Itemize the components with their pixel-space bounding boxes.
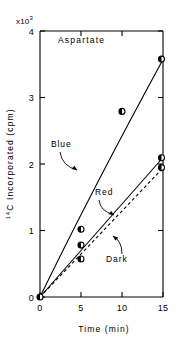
panel-title: Aspartate [58,35,105,45]
data-point-blue-10 [119,108,125,114]
annotation-blue: Blue [51,139,77,170]
x-axis-title-text: Time (min) [78,324,129,334]
svg-text:14C Incorporated (cpm): 14C Incorporated (cpm) [5,108,15,219]
x-tick-label-0: 0 [37,303,42,313]
panel-title-text: Aspartate [58,35,105,45]
data-point-origin [37,294,43,300]
series-line-red [40,158,163,298]
annotation-red-label: Red [95,187,113,197]
y-tick-label-1: 1 [29,226,34,236]
annotation-dark: Dark [106,236,128,264]
exponent-power: 3 [30,15,34,21]
y-tick-label-3: 3 [29,93,34,103]
annotation-blue-label: Blue [51,139,72,149]
y-tick-label-4: 4 [29,27,34,37]
data-point-blue-5 [78,226,84,232]
y-tick-label-2: 2 [29,160,34,170]
x-tick-labels: 0 5 10 15 [37,303,168,313]
figure-container: x103 0 1 2 3 4 0 5 10 15 Time (min) 14C … [0,0,177,347]
data-point-dark-15 [159,165,165,171]
annotation-dark-label: Dark [106,254,128,264]
x-tick-label-5: 5 [78,303,83,313]
x-axis-ticks [40,292,163,297]
plot-frame [40,31,163,297]
y-axis-ticks [40,31,45,297]
x-axis-title: Time (min) [78,324,129,334]
aspartate-line-chart: x103 0 1 2 3 4 0 5 10 15 Time (min) 14C … [0,0,177,347]
data-point-dark-5 [78,256,84,262]
exponent-base: x10 [16,17,30,26]
data-point-red-15 [159,155,165,161]
y-axis-title-text: C Incorporated (cpm) [5,108,15,210]
y-tick-labels: 0 1 2 3 4 [29,27,34,303]
annotation-red: Red [95,187,114,215]
y-axis-title: 14C Incorporated (cpm) [5,108,15,219]
data-point-blue-15 [159,56,165,62]
y-tick-label-0: 0 [29,293,34,303]
y-axis-exponent: x103 [16,15,34,26]
x-tick-label-15: 15 [158,303,169,313]
y-axis-title-superscript: 14 [5,211,11,220]
svg-text:x103: x103 [16,15,34,26]
data-point-red-5 [78,242,84,248]
x-tick-label-10: 10 [117,303,128,313]
